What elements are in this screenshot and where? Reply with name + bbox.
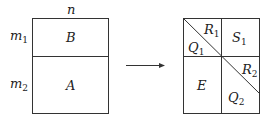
block-r2: R2 bbox=[241, 62, 258, 79]
row-label-m1: m1 bbox=[10, 28, 28, 45]
matrix-transform-diagram: n m1 m2 B A R1 Q1 S1 E R2 Q2 bbox=[0, 0, 270, 123]
arrow bbox=[126, 63, 165, 68]
block-b: B bbox=[65, 30, 76, 45]
block-a: A bbox=[65, 78, 75, 93]
block-e: E bbox=[196, 78, 207, 93]
block-q1: Q1 bbox=[188, 40, 204, 57]
arrow-head-icon bbox=[159, 63, 165, 68]
column-label-n: n bbox=[67, 2, 75, 17]
block-s1: S1 bbox=[232, 30, 247, 47]
block-q2: Q2 bbox=[228, 90, 244, 107]
row-label-m2: m2 bbox=[10, 76, 28, 93]
block-r1: R1 bbox=[203, 22, 220, 39]
